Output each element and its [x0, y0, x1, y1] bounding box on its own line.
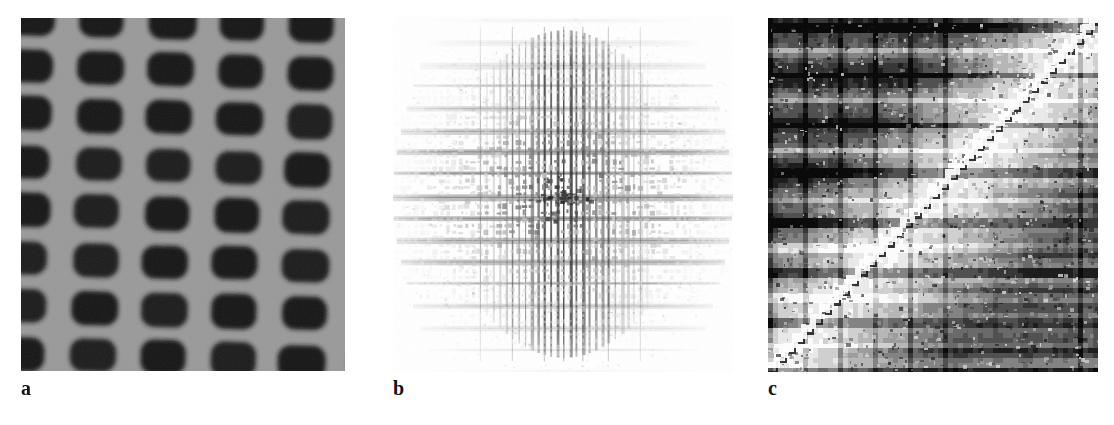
- panel-c-svg: [768, 18, 1098, 372]
- panel-a-image: [21, 18, 345, 371]
- panel-c-image: [768, 18, 1098, 372]
- panel-label-a: a: [21, 378, 31, 398]
- figure-root: a: [0, 0, 1114, 425]
- panel-label-c: c: [768, 378, 777, 398]
- panel-b-svg: [393, 16, 733, 372]
- panel-b-image: [393, 16, 733, 372]
- panel-b-canvas: [393, 16, 733, 372]
- panel-c-canvas: [768, 18, 1098, 372]
- panel-a-canvas: [21, 18, 345, 371]
- panel-a-svg: [21, 18, 345, 371]
- panel-label-b: b: [393, 378, 404, 398]
